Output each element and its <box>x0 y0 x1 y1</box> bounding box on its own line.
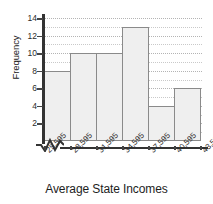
y-axis-tick-label: 14 <box>28 14 37 23</box>
x-axis-tick-labels: 25,59528,59531,59534,59537,59540,59543,5… <box>44 149 213 181</box>
x-axis-tick-label: 43,595 <box>201 132 213 155</box>
x-axis-tick-mark <box>70 146 72 150</box>
x-axis-tick-mark <box>44 146 46 150</box>
y-axis-tick-mark <box>37 71 43 73</box>
histogram-bar <box>70 53 97 141</box>
gridline <box>44 18 202 19</box>
y-axis-tick-mark <box>37 18 43 20</box>
y-axis-tick-label: 10 <box>28 49 37 58</box>
y-axis-tick-labels: 2468101214 <box>20 18 37 141</box>
histogram-bar <box>122 27 149 141</box>
x-axis-tick-mark <box>96 146 98 150</box>
y-axis-tick-mark <box>37 53 43 55</box>
y-axis-tick-mark <box>37 88 43 90</box>
x-axis-title: Average State Incomes <box>0 182 213 196</box>
x-axis-tick-mark <box>148 146 150 150</box>
x-axis-tick-mark <box>174 146 176 150</box>
y-axis-tick-mark <box>37 123 43 125</box>
y-axis-title: Frequency <box>10 18 21 98</box>
x-axis-tick-mark <box>200 146 202 150</box>
y-axis-tick-mark <box>37 106 43 108</box>
y-axis-tick-label: 12 <box>28 31 37 40</box>
histogram-bar <box>44 71 71 141</box>
x-axis-tick-mark <box>122 146 124 150</box>
y-axis-tick-mark <box>37 36 43 38</box>
histogram-chart: Frequency 2468101214 25,59528,59531,5953… <box>0 0 213 204</box>
plot-area <box>44 18 200 141</box>
histogram-bar <box>96 53 123 141</box>
